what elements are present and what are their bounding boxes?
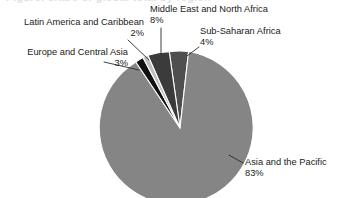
- callout-europe-and-central-asia: Europe and Central Asia 3%: [2, 47, 128, 70]
- callout-name: Middle East and North Africa: [150, 4, 268, 14]
- callout-percent: 3%: [2, 58, 128, 69]
- leader-line-latin-america: [128, 40, 149, 60]
- callout-name: Asia and the Pacific: [245, 157, 327, 167]
- callout-asia-and-the-pacific: Asia and the Pacific 83%: [245, 157, 327, 180]
- callout-middle-east-and-north-africa: Middle East and North Africa 8%: [150, 4, 268, 27]
- callout-percent: 4%: [200, 37, 281, 48]
- callout-sub-saharan-africa: Sub-Saharan Africa 4%: [200, 26, 281, 49]
- callout-percent: 83%: [245, 168, 327, 179]
- callout-name: Europe and Central Asia: [27, 47, 128, 57]
- callout-latin-america-and-caribbean: Latin America and Caribbean 2%: [4, 17, 144, 40]
- pie-slices: [99, 51, 253, 198]
- callout-percent: 2%: [4, 28, 144, 39]
- chart-figure: Figure: share of global total by region …: [0, 0, 340, 198]
- callout-name: Latin America and Caribbean: [24, 17, 144, 27]
- callout-name: Sub-Saharan Africa: [200, 26, 281, 36]
